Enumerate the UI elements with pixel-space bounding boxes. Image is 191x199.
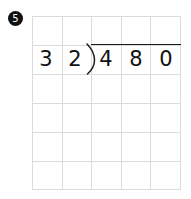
- grid-cell[interactable]: [33, 104, 63, 133]
- grid-cell[interactable]: [151, 104, 181, 133]
- grid-row: [33, 133, 181, 162]
- grid-cell[interactable]: [122, 133, 152, 162]
- grid-row: [33, 162, 181, 190]
- grid-cell[interactable]: [63, 133, 93, 162]
- divisor-digit-tens: 3: [34, 45, 58, 74]
- grid-cell[interactable]: [122, 17, 152, 46]
- grid-cell[interactable]: [63, 17, 93, 46]
- grid-cell[interactable]: [151, 17, 181, 46]
- grid-cell[interactable]: [92, 162, 122, 190]
- grid-cell[interactable]: [33, 133, 63, 162]
- dividend-digit-tens: 8: [124, 45, 148, 74]
- grid-cell[interactable]: [63, 75, 93, 104]
- answer-grid: [32, 16, 181, 190]
- grid-cell[interactable]: [151, 162, 181, 190]
- grid-cell[interactable]: [122, 75, 152, 104]
- grid-cell[interactable]: [151, 133, 181, 162]
- grid-cell[interactable]: [33, 17, 63, 46]
- grid-cell[interactable]: [122, 104, 152, 133]
- grid-cell[interactable]: [92, 17, 122, 46]
- grid-row: [33, 104, 181, 133]
- problem-number-marker: 5: [8, 11, 23, 26]
- grid-cell[interactable]: [151, 75, 181, 104]
- divisor-digit-ones: 2: [63, 45, 87, 74]
- grid-cell[interactable]: [63, 162, 93, 190]
- grid-cell[interactable]: [63, 104, 93, 133]
- grid-row: [33, 75, 181, 104]
- grid-cell[interactable]: [33, 75, 63, 104]
- grid-cell[interactable]: [92, 104, 122, 133]
- grid-cell[interactable]: [122, 162, 152, 190]
- grid-cell[interactable]: [92, 133, 122, 162]
- grid-row: [33, 17, 181, 46]
- long-division-worksheet: 5: [0, 0, 191, 199]
- grid-cell[interactable]: [92, 75, 122, 104]
- dividend-digit-ones: 0: [154, 45, 178, 74]
- grid-cell[interactable]: [33, 162, 63, 190]
- dividend-digit-hundreds: 4: [94, 45, 118, 74]
